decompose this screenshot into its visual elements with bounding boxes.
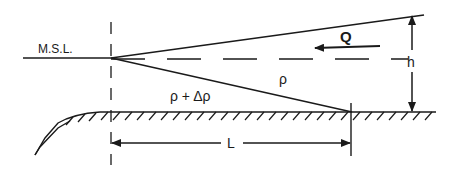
q-flow-arrow xyxy=(315,46,380,48)
free-surface-line xyxy=(111,15,424,58)
sea-bed-slope xyxy=(35,112,100,155)
discharge-label: Q xyxy=(340,28,352,45)
bed-hatching xyxy=(101,112,432,120)
saltwater-wedge-diagram: M.S.L. Q ρ ρ + Δρ h L xyxy=(0,0,458,181)
depth-label: h xyxy=(407,54,415,70)
salt-density-label: ρ + Δρ xyxy=(170,88,210,104)
wedge-interface-line xyxy=(111,58,352,112)
fresh-density-label: ρ xyxy=(279,71,287,87)
msl-label: M.S.L. xyxy=(38,42,73,56)
length-label: L xyxy=(227,135,235,151)
